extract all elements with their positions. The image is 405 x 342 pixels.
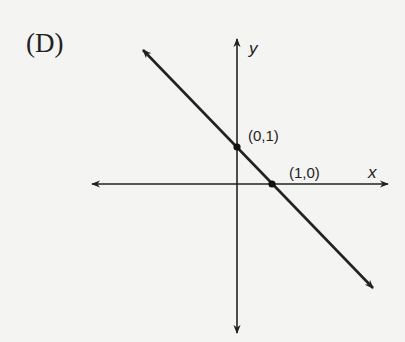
graph-figure: (D) y x (0,1) (1,0) (0, 0, 405, 342)
x-axis-label: x (368, 164, 377, 181)
answer-choice-label: (D) (26, 30, 63, 57)
point-0-1 (233, 143, 240, 150)
point-label-0-1: (0,1) (248, 128, 279, 143)
point-1-0 (268, 180, 275, 187)
y-axis-label: y (249, 40, 258, 57)
graph-line (143, 50, 373, 288)
point-label-1-0: (1,0) (289, 165, 320, 180)
